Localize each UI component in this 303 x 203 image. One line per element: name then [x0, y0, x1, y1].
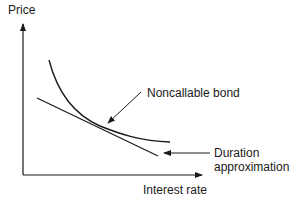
- duration-approximation-line: [37, 98, 158, 156]
- duration-label-line2: approximation: [214, 160, 289, 174]
- x-axis-label: Interest rate: [143, 183, 207, 197]
- noncallable-bond-label: Noncallable bond: [147, 86, 240, 100]
- noncallable-bond-curve: [49, 60, 170, 142]
- duration-label-line1: Duration: [214, 146, 259, 160]
- noncallable-bond-arrow: [108, 92, 141, 123]
- y-axis-label: Price: [8, 3, 35, 17]
